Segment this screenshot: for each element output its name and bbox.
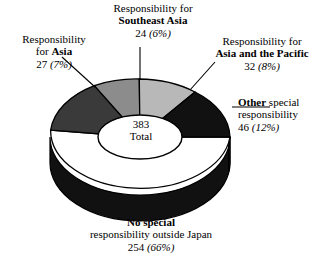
label-asia-line2-prefix: for bbox=[36, 45, 52, 57]
label-asia-region: Asia bbox=[51, 45, 72, 57]
label-no-special: No special responsibility outside Japan … bbox=[56, 216, 246, 253]
label-other-percent: (12%) bbox=[252, 121, 280, 133]
label-other-line3: 46 (12%) bbox=[238, 121, 328, 133]
label-southeast-asia-line3: 24 (6%) bbox=[96, 27, 210, 39]
label-asia-pacific-line3: 32 (8%) bbox=[196, 60, 328, 72]
label-no-special-percent: (66%) bbox=[147, 241, 175, 253]
label-southeast-asia-percent: (6%) bbox=[149, 27, 171, 39]
label-southeast-asia-value: 24 bbox=[135, 27, 149, 39]
label-asia-value: 27 bbox=[36, 58, 50, 70]
label-other-value: 46 bbox=[238, 121, 252, 133]
label-asia-line3: 27 (7%) bbox=[2, 58, 106, 70]
label-asia-percent: (7%) bbox=[50, 58, 72, 70]
label-other-line1-rest: special bbox=[266, 96, 299, 108]
label-asia-pacific: Responsibility for Asia and the Pacific … bbox=[196, 35, 328, 72]
label-other-keyword: Other bbox=[238, 96, 266, 108]
label-other-line2: responsibility bbox=[238, 108, 328, 120]
label-asia-pacific-region: Asia and the Pacific bbox=[196, 47, 328, 59]
center-total: 383 Total bbox=[110, 118, 172, 142]
label-asia: Responsibility for Asia 27 (7%) bbox=[2, 33, 106, 70]
label-no-special-keyword: No special bbox=[56, 216, 246, 228]
label-southeast-asia-region: Southeast Asia bbox=[96, 14, 210, 26]
label-asia-pacific-line1: Responsibility for bbox=[196, 35, 328, 47]
label-no-special-line3: 254 (66%) bbox=[56, 241, 246, 253]
label-asia-pacific-value: 32 bbox=[244, 60, 258, 72]
label-southeast-asia-line1: Responsibility for bbox=[96, 2, 210, 14]
center-total-value: 383 bbox=[110, 118, 172, 130]
label-other: Other special responsibility 46 (12%) bbox=[238, 96, 328, 133]
label-no-special-value: 254 bbox=[128, 241, 147, 253]
label-asia-pacific-percent: (8%) bbox=[258, 60, 280, 72]
center-total-label: Total bbox=[110, 130, 172, 142]
label-southeast-asia: Responsibility for Southeast Asia 24 (6%… bbox=[96, 2, 210, 39]
chart-canvas: 383 Total Responsibility for Asia 27 (7%… bbox=[0, 0, 329, 266]
label-asia-line1: Responsibility bbox=[2, 33, 106, 45]
label-no-special-line2: responsibility outside Japan bbox=[56, 228, 246, 240]
label-other-line1: Other special bbox=[238, 96, 328, 108]
label-asia-line2: for Asia bbox=[2, 45, 106, 57]
